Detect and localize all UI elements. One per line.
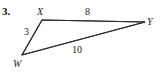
side-xy-line	[42, 20, 145, 22]
side-length-wy: 10	[72, 45, 82, 55]
side-wy-line	[22, 22, 145, 55]
side-length-wx: 3	[24, 27, 29, 37]
vertex-label-w: W	[13, 59, 21, 69]
vertex-label-y: Y	[147, 17, 153, 27]
vertex-label-x: X	[37, 7, 43, 17]
side-length-xy: 8	[85, 7, 90, 17]
triangle-diagram	[0, 0, 160, 81]
figure-container: 3. X Y W 3 8 10	[0, 0, 160, 81]
